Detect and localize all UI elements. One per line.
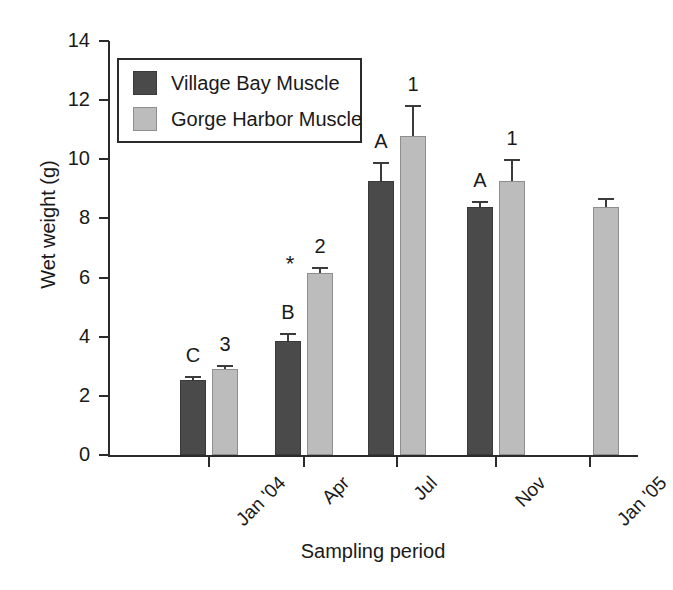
bar-village-bay-1 [275,341,301,455]
y-tick-10 [99,158,109,160]
bar-gorge-harbor-1-error-cap [312,267,328,269]
x-tick-4 [589,457,591,467]
x-tick-label-4: Jan '05 [613,472,671,530]
x-tick-label-1: Apr [318,472,354,508]
y-tick-8 [99,217,109,219]
y-tick-label-4: 4 [50,326,90,346]
y-tick-4 [99,336,109,338]
annotation-gorge-harbor-2: 1 [407,73,418,96]
y-tick-label-6: 6 [50,267,90,287]
bar-gorge-harbor-1 [307,273,333,455]
annotation-village-bay-1: B [281,301,294,324]
legend-item-village-bay: Village Bay Muscle [133,66,340,100]
bar-gorge-harbor-0-error-cap [217,365,233,367]
y-tick-label-10: 10 [50,148,90,168]
annotation-asterisk-0: * [286,257,295,271]
y-tick-6 [99,277,109,279]
y-tick-label-8: 8 [50,207,90,227]
bar-village-bay-2-error-cap [373,162,389,164]
legend-label-village-bay: Village Bay Muscle [171,73,340,93]
bar-gorge-harbor-2 [400,136,426,455]
bar-village-bay-2 [368,181,394,455]
x-tick-2 [396,457,398,467]
x-tick-label-0: Jan '04 [232,472,290,530]
x-tick-label-3: Nov [511,472,550,511]
bar-gorge-harbor-3 [499,181,525,455]
legend-swatch-gorge-harbor [133,107,157,131]
annotation-gorge-harbor-1: 2 [314,235,325,258]
bar-village-bay-0-error-cap [185,376,201,378]
bar-gorge-harbor-2-error-cap [405,105,421,107]
bar-village-bay-0 [180,380,206,455]
y-tick-label-14: 14 [50,30,90,50]
bar-gorge-harbor-4 [593,207,619,455]
y-tick-14 [99,40,109,42]
y-tick-12 [99,99,109,101]
y-tick-label-0: 0 [50,444,90,464]
x-tick-3 [495,457,497,467]
x-tick-1 [303,457,305,467]
chart-legend: Village Bay Muscle Gorge Harbor Muscle [117,58,362,143]
y-tick-label-2: 2 [50,385,90,405]
x-tick-0 [208,457,210,467]
y-tick-0 [99,454,109,456]
bar-gorge-harbor-0 [212,369,238,455]
bar-gorge-harbor-4-error-cap [598,198,614,200]
x-axis-title: Sampling period [108,540,638,563]
x-tick-label-2: Jul [409,472,442,505]
bar-village-bay-2-error-stem [380,162,382,181]
annotation-gorge-harbor-3: 1 [506,127,517,150]
x-axis-line [108,455,638,457]
y-axis-line [108,41,110,456]
bar-chart: Wet weight (g) Sampling period 024681012… [0,0,673,590]
annotation-village-bay-2: A [374,130,387,153]
bar-gorge-harbor-3-error-stem [511,159,513,181]
bar-village-bay-3 [467,207,493,455]
legend-label-gorge-harbor: Gorge Harbor Muscle [171,109,362,129]
y-tick-2 [99,395,109,397]
legend-swatch-village-bay [133,71,157,95]
bar-village-bay-1-error-cap [280,333,296,335]
bar-gorge-harbor-3-error-cap [504,159,520,161]
annotation-village-bay-3: A [473,169,486,192]
bar-village-bay-3-error-cap [472,201,488,203]
legend-item-gorge-harbor: Gorge Harbor Muscle [133,102,362,136]
annotation-gorge-harbor-0: 3 [219,333,230,356]
annotation-village-bay-0: C [186,344,200,367]
y-tick-label-12: 12 [50,89,90,109]
bar-gorge-harbor-2-error-stem [412,105,414,136]
